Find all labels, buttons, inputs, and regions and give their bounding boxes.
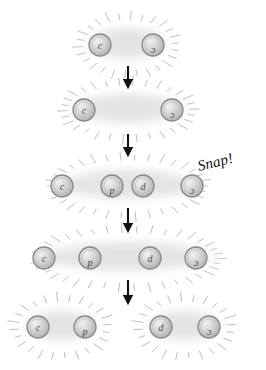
- tick-mark: [93, 209, 96, 214]
- tick-mark: [77, 53, 85, 55]
- tick-mark: [45, 270, 51, 272]
- tick-mark: [106, 211, 109, 219]
- tick-mark: [197, 239, 203, 243]
- tick-mark: [78, 31, 87, 34]
- tick-mark: [196, 274, 202, 278]
- tick-mark: [160, 155, 165, 163]
- tick-mark: [170, 35, 180, 38]
- tick-mark: [136, 134, 137, 141]
- tick-mark: [8, 321, 19, 323]
- tick-mark: [225, 315, 236, 318]
- tick-mark: [121, 212, 122, 218]
- tick-mark: [188, 353, 189, 358]
- tick-mark: [135, 212, 136, 221]
- tick-mark: [136, 70, 137, 75]
- tick-mark: [181, 163, 188, 169]
- tick-mark: [75, 351, 78, 359]
- tick-mark: [148, 283, 151, 292]
- tick-mark: [76, 229, 81, 236]
- tick-mark: [139, 336, 145, 338]
- tick-mark: [184, 119, 192, 122]
- tick-mark: [131, 11, 132, 19]
- tick-mark: [176, 352, 178, 359]
- tick-mark: [73, 125, 80, 129]
- tick-mark: [101, 315, 112, 318]
- tick-mark: [92, 230, 94, 235]
- tick-mark: [132, 321, 143, 323]
- tick-mark: [79, 160, 84, 166]
- tick-mark: [101, 67, 105, 72]
- tick-mark: [85, 348, 89, 353]
- tick-mark: [104, 283, 106, 288]
- tick-mark: [90, 155, 95, 163]
- tick-mark: [105, 13, 110, 22]
- tick-mark: [65, 234, 70, 239]
- tick-mark: [147, 154, 149, 161]
- tick-mark: [44, 296, 47, 303]
- tick-mark: [63, 121, 73, 125]
- tick-mark: [136, 226, 137, 232]
- tick-mark: [90, 63, 97, 69]
- tick-mark: [112, 70, 115, 79]
- string-link: [84, 106, 172, 115]
- tick-mark: [88, 281, 92, 288]
- tick-mark: [164, 230, 167, 235]
- tick-mark: [73, 47, 84, 48]
- tick-mark: [178, 124, 187, 129]
- tick-mark: [15, 336, 21, 338]
- quark-node: d: [79, 247, 101, 270]
- tick-mark: [67, 203, 75, 209]
- tick-mark: [38, 350, 43, 359]
- quark-node: c: [198, 316, 220, 339]
- tick-mark: [85, 58, 90, 61]
- tick-mark: [157, 302, 161, 306]
- tick-mark: [155, 65, 160, 70]
- tick-mark: [199, 351, 202, 359]
- quark-node: d: [150, 316, 172, 338]
- tick-mark: [125, 71, 126, 78]
- tick-mark: [119, 284, 120, 292]
- tick-mark: [183, 95, 193, 99]
- tick-mark: [205, 242, 214, 246]
- tick-mark: [142, 342, 150, 347]
- quark-label-c: c: [82, 105, 87, 116]
- quark-node: c: [142, 34, 164, 57]
- diagram-canvas: cccccddccddccddc Snap!: [0, 0, 266, 370]
- tick-mark: [89, 303, 93, 307]
- quark-label-c-bar: c: [150, 46, 155, 57]
- quark-node: c: [161, 99, 183, 122]
- quark-label-c: c: [98, 40, 103, 51]
- quark-node: d: [132, 175, 154, 197]
- quark-node: c: [51, 175, 73, 197]
- tick-mark: [16, 313, 23, 316]
- quark-node: c: [73, 99, 95, 121]
- tick-mark: [119, 78, 120, 85]
- tick-mark: [160, 131, 165, 138]
- tick-mark: [52, 352, 54, 359]
- quark-label-c-bar: c: [189, 187, 194, 198]
- tick-mark: [151, 225, 154, 233]
- tick-mark: [21, 305, 29, 310]
- tick-mark: [51, 236, 60, 242]
- tick-mark: [168, 56, 176, 59]
- tick-mark: [151, 17, 156, 23]
- tick-mark: [182, 203, 188, 207]
- tick-mark: [176, 90, 183, 94]
- tick-mark: [104, 324, 111, 325]
- tick-mark: [228, 324, 235, 325]
- tick-mark: [148, 211, 150, 218]
- tick-mark: [189, 170, 194, 173]
- tick-mark: [29, 347, 34, 352]
- tick-mark: [63, 277, 68, 282]
- tick-mark: [193, 296, 194, 302]
- quark-node: d: [101, 175, 123, 198]
- tick-mark: [57, 292, 58, 301]
- scene-svg: cccccddccddccddc: [0, 0, 266, 370]
- tick-mark: [134, 155, 135, 160]
- tick-mark: [58, 168, 67, 172]
- tick-mark: [85, 129, 89, 133]
- quark-label-c: c: [60, 181, 65, 192]
- tick-mark: [146, 68, 150, 76]
- tick-mark: [95, 19, 100, 25]
- tick-mark: [188, 233, 196, 240]
